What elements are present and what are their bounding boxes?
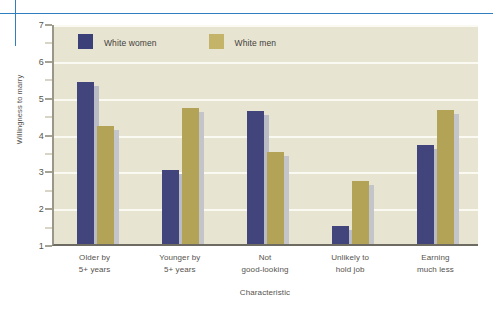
bar-shadow	[284, 156, 289, 244]
x-tick-label: Older by5+ years	[48, 252, 142, 275]
y-tick-mark-minor	[45, 116, 52, 118]
x-tick-label-line: good-looking	[218, 264, 312, 276]
y-tick-label: 1	[39, 241, 44, 251]
bar	[77, 82, 94, 244]
y-axis-title: Willingness to marry	[15, 55, 24, 165]
bar-shadow	[454, 114, 459, 244]
bar-body	[437, 110, 454, 244]
x-tick-label: Younger by5+ years	[133, 252, 227, 275]
y-tick-mark-minor	[45, 153, 52, 155]
x-tick-label-line: Not	[218, 252, 312, 264]
y-tick-mark-minor	[45, 79, 52, 81]
y-tick-label: 7	[39, 20, 44, 30]
bar	[267, 152, 284, 244]
x-tick-label: Unlikely tohold job	[303, 252, 397, 275]
legend-label: White women	[104, 38, 157, 48]
chart-legend: White womenWhite men	[78, 34, 276, 52]
y-tick-mark	[45, 98, 52, 100]
y-axis: 1234567	[26, 25, 52, 246]
bar	[162, 170, 179, 244]
bar-body	[77, 82, 94, 244]
bar-chart-figure: Willingness to marry 1234567 White women…	[0, 0, 493, 311]
y-tick-mark-minor	[45, 190, 52, 192]
y-tick-label: 6	[39, 57, 44, 67]
bars-layer	[54, 25, 478, 244]
y-tick-mark	[45, 135, 52, 137]
bar-body	[162, 170, 179, 244]
y-tick-mark	[45, 24, 52, 26]
legend-swatch-body	[209, 34, 224, 49]
legend-item: White women	[78, 34, 157, 52]
x-tick-label: Earningmuch less	[388, 252, 482, 275]
bar-body	[417, 145, 434, 244]
bar	[97, 126, 114, 244]
y-tick-mark	[45, 208, 52, 210]
y-tick-mark-minor	[45, 227, 52, 229]
legend-swatch	[209, 34, 227, 52]
bar-shadow	[114, 130, 119, 244]
bar	[247, 111, 264, 244]
bar-body	[247, 111, 264, 244]
bar	[332, 226, 349, 244]
y-tick-label: 5	[39, 94, 44, 104]
x-axis-tick-labels: Older by5+ yearsYounger by5+ yearsNotgoo…	[52, 252, 478, 286]
y-tick-label: 3	[39, 167, 44, 177]
bar	[352, 181, 369, 244]
x-axis-title: Characteristic	[52, 288, 478, 297]
bar	[182, 108, 199, 244]
legend-item: White men	[209, 34, 277, 52]
y-tick-label: 2	[39, 204, 44, 214]
y-tick-label: 4	[39, 131, 44, 141]
y-tick-mark	[45, 171, 52, 173]
y-tick-mark-minor	[45, 42, 52, 44]
bar-body	[182, 108, 199, 244]
bar-body	[352, 181, 369, 244]
bar	[437, 110, 454, 244]
y-tick-mark	[45, 61, 52, 63]
bar-body	[267, 152, 284, 244]
x-tick-label-line: 5+ years	[48, 264, 142, 276]
plot-area	[52, 25, 478, 246]
bar-shadow	[369, 185, 374, 244]
x-tick-label-line: 5+ years	[133, 264, 227, 276]
legend-label: White men	[235, 38, 277, 48]
x-tick-label-line: Older by	[48, 252, 142, 264]
x-tick-label-line: hold job	[303, 264, 397, 276]
legend-swatch	[78, 34, 96, 52]
bar-body	[97, 126, 114, 244]
x-tick-label-line: much less	[388, 264, 482, 276]
legend-swatch-body	[78, 34, 93, 49]
x-tick-label: Notgood-looking	[218, 252, 312, 275]
bar-body	[332, 226, 349, 244]
bar	[417, 145, 434, 244]
x-tick-label-line: Younger by	[133, 252, 227, 264]
bar-shadow	[199, 112, 204, 244]
x-tick-label-line: Earning	[388, 252, 482, 264]
y-tick-mark	[45, 245, 52, 247]
x-tick-label-line: Unlikely to	[303, 252, 397, 264]
